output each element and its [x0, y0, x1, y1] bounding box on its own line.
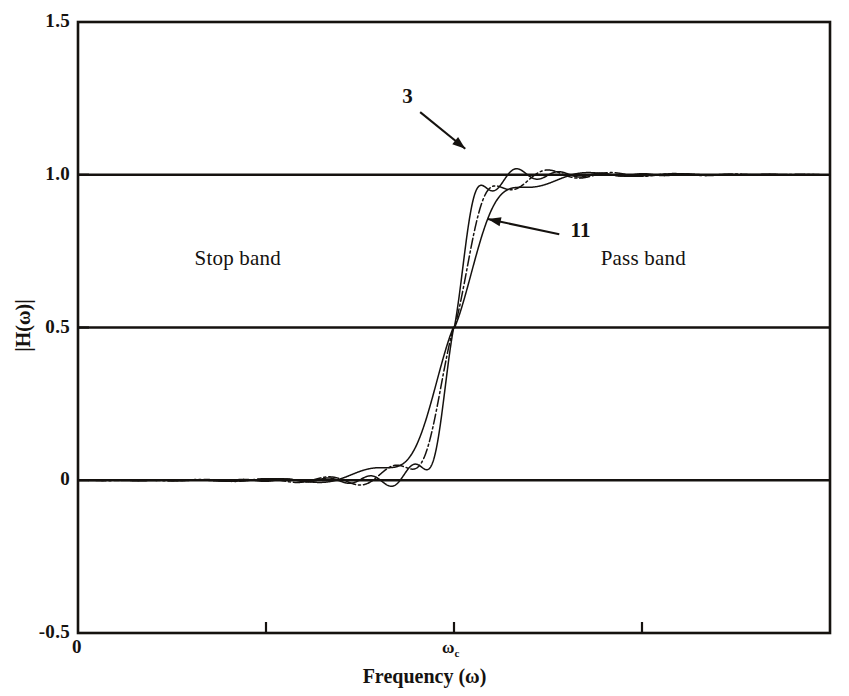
plot-canvas	[0, 0, 849, 696]
y-tick-label-1-0: 1.0	[8, 163, 70, 185]
y-tick-label-0: 0	[8, 468, 70, 490]
pass-band-label: Pass band	[601, 246, 686, 271]
x-axis-title: Frequency (ω)	[0, 665, 849, 688]
curve-label-11: 11	[571, 218, 591, 243]
axis-ticks	[78, 175, 642, 633]
annotation-arrows	[420, 112, 559, 234]
stop-band-label: Stop band	[195, 246, 281, 271]
y-axis-title: |H(ω)|	[12, 280, 35, 370]
y-tick-label-minus-0-5: -0.5	[8, 621, 70, 643]
arrow-to-curve-11	[488, 217, 559, 234]
filter-response-figure: 1.5 1.0 0.5 0 -0.5 0 ωc Frequency (ω) |H…	[0, 0, 849, 696]
curve-label-3: 3	[402, 84, 413, 109]
omega-glyph: ω	[442, 638, 454, 657]
arrow-to-curve-3	[420, 112, 465, 149]
x-tick-label-omega-c: ωc	[442, 638, 459, 659]
omega-subscript: c	[454, 647, 459, 659]
x-tick-label-origin: 0	[72, 636, 82, 658]
y-tick-label-1-5: 1.5	[8, 10, 70, 32]
